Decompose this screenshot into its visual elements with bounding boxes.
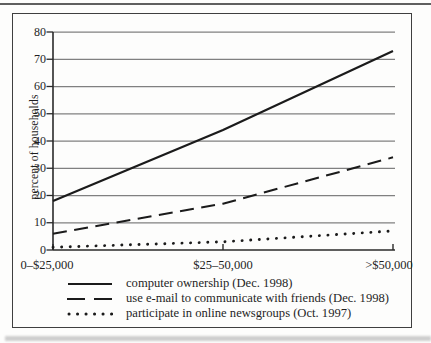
y-tick-label: 30 — [18, 161, 46, 176]
series-computer-ownership — [53, 51, 393, 201]
y-tick-label: 70 — [18, 52, 46, 67]
legend-swatch-dotted — [67, 307, 113, 321]
y-tick-label: 60 — [18, 79, 46, 94]
legend-label: computer ownership (Dec. 1998) — [126, 276, 292, 291]
legend-swatch-dashed — [67, 292, 113, 306]
legend-label: participate in online newsgroups (Oct. 1… — [126, 306, 351, 321]
y-tick-label: 0 — [18, 243, 46, 258]
y-tick-label: 40 — [18, 134, 46, 149]
legend-swatch-solid — [67, 277, 113, 291]
x-tick-label: 0–$25,000 — [7, 258, 87, 273]
y-tick-label: 10 — [18, 215, 46, 230]
legend-item: computer ownership (Dec. 1998) — [67, 276, 389, 291]
legend-item: participate in online newsgroups (Oct. 1… — [67, 306, 389, 321]
x-tick-label: $25–50,000 — [183, 258, 263, 273]
scan-smudge — [5, 336, 431, 341]
y-tick-label: 80 — [18, 25, 46, 40]
y-tick-label: 20 — [18, 188, 46, 203]
x-tick-label: >$50,000 — [349, 258, 429, 273]
legend-item: use e-mail to communicate with friends (… — [67, 291, 389, 306]
legend: computer ownership (Dec. 1998) use e-mai… — [67, 276, 389, 322]
y-tick-label: 50 — [18, 106, 46, 121]
legend-label: use e-mail to communicate with friends (… — [126, 291, 389, 306]
figure: percent of households 0–$25,000 $25–50,0… — [0, 0, 431, 343]
